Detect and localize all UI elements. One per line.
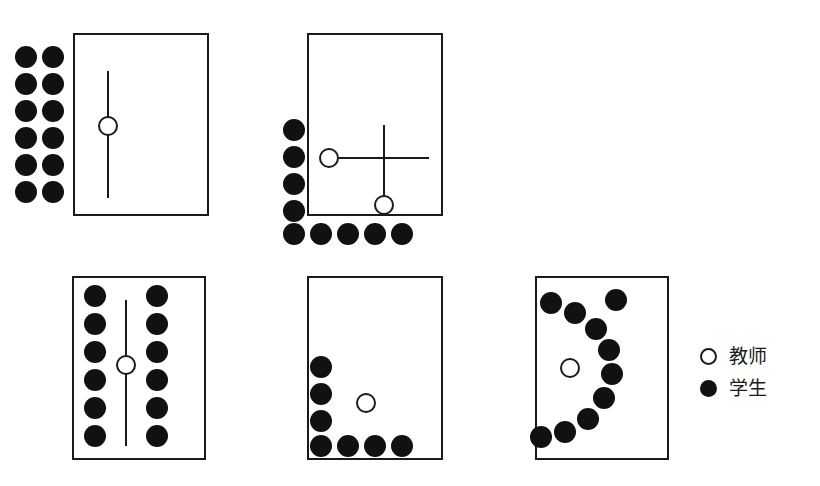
student-marker — [283, 119, 305, 141]
student-marker — [84, 341, 106, 363]
student-marker — [391, 435, 413, 457]
legend-label-teacher: 教师 — [729, 347, 767, 366]
student-marker — [42, 181, 64, 203]
student-marker — [146, 425, 168, 447]
student-marker — [540, 292, 562, 314]
student-marker — [364, 223, 386, 245]
student-marker — [310, 383, 332, 405]
student-marker — [605, 289, 627, 311]
student-marker — [310, 435, 332, 457]
classroom-frame — [307, 33, 443, 216]
student-marker — [310, 410, 332, 432]
student-marker — [15, 100, 37, 122]
student-marker — [15, 127, 37, 149]
open-circle-icon — [700, 348, 717, 365]
figure-canvas — [0, 0, 820, 486]
student-marker — [598, 339, 620, 361]
student-marker — [554, 421, 576, 443]
student-marker — [283, 146, 305, 168]
movement-line-vertical — [383, 125, 385, 198]
student-marker — [15, 154, 37, 176]
teacher-marker — [319, 148, 339, 168]
student-marker — [15, 73, 37, 95]
student-marker — [84, 369, 106, 391]
legend-item-student: 学生 — [700, 372, 820, 404]
teacher-marker — [560, 358, 580, 378]
student-marker — [146, 369, 168, 391]
student-marker — [42, 46, 64, 68]
student-marker — [337, 435, 359, 457]
student-marker — [564, 302, 586, 324]
legend-item-teacher: 教师 — [700, 340, 820, 372]
student-marker — [42, 127, 64, 149]
student-marker — [146, 341, 168, 363]
filled-circle-icon — [700, 380, 717, 397]
student-marker — [310, 356, 332, 378]
student-marker — [601, 363, 623, 385]
teacher-marker — [374, 195, 394, 215]
student-marker — [84, 285, 106, 307]
teacher-marker — [356, 393, 376, 413]
student-marker — [593, 387, 615, 409]
classroom-frame — [73, 33, 209, 216]
student-marker — [364, 435, 386, 457]
student-marker — [283, 173, 305, 195]
student-marker — [15, 181, 37, 203]
student-marker — [283, 223, 305, 245]
student-marker — [146, 397, 168, 419]
student-marker — [530, 426, 552, 448]
student-marker — [577, 408, 599, 430]
student-marker — [283, 200, 305, 222]
student-marker — [146, 313, 168, 335]
student-marker — [310, 223, 332, 245]
student-marker — [146, 285, 168, 307]
student-marker — [337, 223, 359, 245]
teacher-marker — [116, 355, 136, 375]
student-marker — [84, 397, 106, 419]
student-marker — [42, 73, 64, 95]
student-marker — [42, 100, 64, 122]
student-marker — [391, 223, 413, 245]
legend: 教师 学生 — [700, 340, 820, 404]
student-marker — [42, 154, 64, 176]
legend-label-student: 学生 — [729, 379, 767, 398]
student-marker — [84, 313, 106, 335]
teacher-marker — [98, 116, 118, 136]
student-marker — [84, 425, 106, 447]
student-marker — [585, 318, 607, 340]
student-marker — [15, 46, 37, 68]
